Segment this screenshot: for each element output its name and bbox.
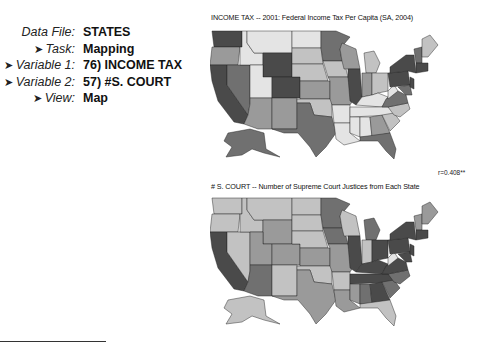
variable2-value[interactable]: 57) #S. COURT — [83, 75, 171, 89]
bottom-map-title: # S. COURT -- Number of Supreme Court Ju… — [211, 182, 419, 191]
state-ak[interactable] — [224, 129, 280, 157]
task-label-wrap: ➤Task: — [0, 42, 83, 56]
view-value[interactable]: Map — [83, 91, 108, 105]
state-mt[interactable] — [247, 198, 292, 220]
view-label-wrap: ➤View: — [0, 91, 83, 105]
data-file-label: Data File: — [0, 25, 83, 39]
task-row: ➤Task: Mapping — [0, 41, 210, 58]
state-oh[interactable] — [372, 240, 388, 262]
state-mi[interactable] — [364, 51, 380, 73]
state-pa[interactable] — [388, 71, 410, 87]
variable2-row: ➤Variable 2: 57) #S. COURT — [0, 74, 210, 91]
arrow-icon: ➤ — [4, 59, 13, 71]
state-ar[interactable] — [332, 105, 350, 123]
state-wi[interactable] — [340, 210, 360, 236]
state-me[interactable] — [422, 35, 438, 57]
state-ma-ct-ri[interactable] — [416, 63, 428, 73]
state-ma-ct-ri[interactable] — [416, 230, 428, 240]
state-nd[interactable] — [292, 198, 321, 215]
state-me[interactable] — [422, 202, 438, 224]
state-vt-nh[interactable] — [414, 47, 422, 63]
variable1-value[interactable]: 76) INCOME TAX — [83, 58, 182, 72]
variable1-row: ➤Variable 1: 76) INCOME TAX — [0, 57, 210, 74]
state-nd[interactable] — [292, 31, 321, 48]
state-pa[interactable] — [388, 238, 410, 254]
state-sd[interactable] — [292, 215, 323, 231]
state-nm[interactable] — [272, 98, 297, 129]
state-fl[interactable] — [360, 300, 396, 326]
state-co[interactable] — [272, 244, 300, 265]
state-nj[interactable] — [410, 77, 414, 89]
state-wy[interactable] — [263, 53, 292, 77]
state-ny[interactable] — [390, 55, 416, 73]
analysis-settings-panel: Data File: STATES ➤Task: Mapping ➤Variab… — [0, 24, 210, 107]
state-ks[interactable] — [300, 81, 330, 99]
state-in[interactable] — [362, 240, 372, 264]
supreme-court-map[interactable] — [210, 196, 450, 326]
state-oh[interactable] — [372, 73, 388, 95]
income-tax-map[interactable] — [210, 29, 450, 159]
state-wa[interactable] — [212, 31, 242, 47]
states-top — [210, 31, 438, 159]
state-in[interactable] — [362, 73, 372, 97]
task-value[interactable]: Mapping — [83, 42, 134, 56]
state-or[interactable] — [210, 47, 240, 65]
state-sd[interactable] — [292, 48, 323, 64]
divider-line — [0, 341, 106, 342]
state-fl[interactable] — [360, 133, 396, 159]
states-bottom — [210, 198, 438, 326]
data-file-row: Data File: STATES — [0, 24, 210, 41]
state-mi[interactable] — [364, 218, 380, 240]
state-or[interactable] — [210, 214, 240, 232]
state-ar[interactable] — [332, 272, 350, 290]
state-ny[interactable] — [390, 222, 416, 240]
top-map-title: INCOME TAX -- 2001: Federal Income Tax P… — [211, 13, 413, 22]
state-vt-nh[interactable] — [414, 214, 422, 230]
correlation-value: r=0.408** — [438, 169, 465, 176]
state-nj[interactable] — [410, 244, 414, 256]
arrow-icon: ➤ — [33, 92, 42, 104]
variable2-label-wrap: ➤Variable 2: — [0, 75, 83, 89]
state-wa[interactable] — [212, 198, 242, 214]
view-row: ➤View: Map — [0, 90, 210, 107]
arrow-icon: ➤ — [34, 43, 43, 55]
arrow-icon: ➤ — [4, 76, 13, 88]
data-file-value[interactable]: STATES — [83, 25, 130, 39]
state-wy[interactable] — [263, 220, 292, 244]
state-co[interactable] — [272, 77, 300, 98]
state-wi[interactable] — [340, 43, 360, 69]
state-nm[interactable] — [272, 265, 297, 296]
state-ks[interactable] — [300, 248, 330, 266]
task-label: Task: — [46, 42, 75, 56]
variable1-label: Variable 1: — [16, 58, 75, 72]
state-ak[interactable] — [224, 296, 280, 324]
view-label: View: — [45, 91, 75, 105]
variable2-label: Variable 2: — [16, 75, 75, 89]
variable1-label-wrap: ➤Variable 1: — [0, 58, 83, 72]
state-mt[interactable] — [247, 31, 292, 53]
